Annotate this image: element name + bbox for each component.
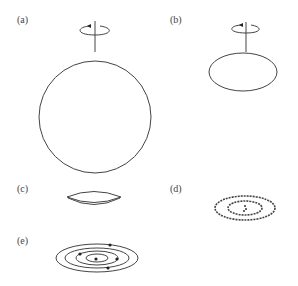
planets-e: [78, 243, 118, 269]
rotation-axis-icon-a: [80, 21, 109, 52]
lens-disk-c: [67, 192, 121, 205]
rotation-axis-icon-b: [232, 22, 259, 52]
dusty-rings-d: [215, 196, 275, 220]
ellipsoid-b: [209, 53, 277, 91]
diagram-canvas: [0, 0, 298, 286]
sphere-a: [39, 61, 151, 173]
central-condensation-d: [243, 205, 247, 212]
